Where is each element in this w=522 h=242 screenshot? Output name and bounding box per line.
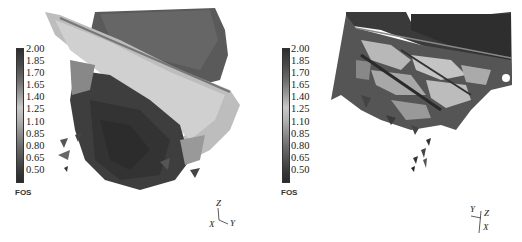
tick-label: 0.50 [291,164,309,176]
axis-z-label: Z [484,208,489,218]
axis-x-label: X [483,222,489,232]
tick-label: 1.70 [26,67,44,79]
fos-colorbar [282,48,290,183]
tick-label: 0.65 [26,152,44,164]
tick-label: 0.50 [26,164,44,176]
tick-label: 0.85 [291,128,309,140]
tick-label: 1.40 [291,91,309,103]
tick-label: 0.85 [26,128,44,140]
tick-label: 1.40 [26,91,44,103]
axis-y-label: Y [470,204,475,214]
tick-label: 1.85 [26,55,44,67]
tick-label: 0.80 [26,140,44,152]
tick-label: 1.65 [291,79,309,91]
axis-y-label: Y [230,218,235,228]
tick-label: 2.00 [291,43,309,55]
tick-label: 1.25 [291,103,309,115]
left-panel: 2.00 1.85 1.70 1.65 1.40 1.25 1.10 0.85 … [0,0,261,242]
axes-triad: Y Z X [465,203,505,239]
tick-label: 1.10 [291,116,309,128]
axis-z-label: Z [216,198,221,208]
fos-colorbar [16,48,24,183]
right-panel: 2.00 1.85 1.70 1.65 1.40 1.25 1.10 0.85 … [261,0,522,242]
colorbar-ticks: 2.00 1.85 1.70 1.65 1.40 1.25 1.10 0.85 … [291,43,309,176]
colorbar-title: FOS [15,188,31,197]
tick-label: 2.00 [26,43,44,55]
tick-label: 1.85 [291,55,309,67]
colorbar-title: FOS [281,188,297,197]
tick-label: 1.25 [26,103,44,115]
tick-label: 1.10 [26,116,44,128]
tick-label: 1.70 [291,67,309,79]
colorbar-ticks: 2.00 1.85 1.70 1.65 1.40 1.25 1.10 0.85 … [26,43,44,176]
tick-label: 0.65 [291,152,309,164]
axis-x-label: X [209,219,215,229]
tick-label: 0.80 [291,140,309,152]
axes-triad: Z X Y [205,198,245,234]
tick-label: 1.65 [26,79,44,91]
